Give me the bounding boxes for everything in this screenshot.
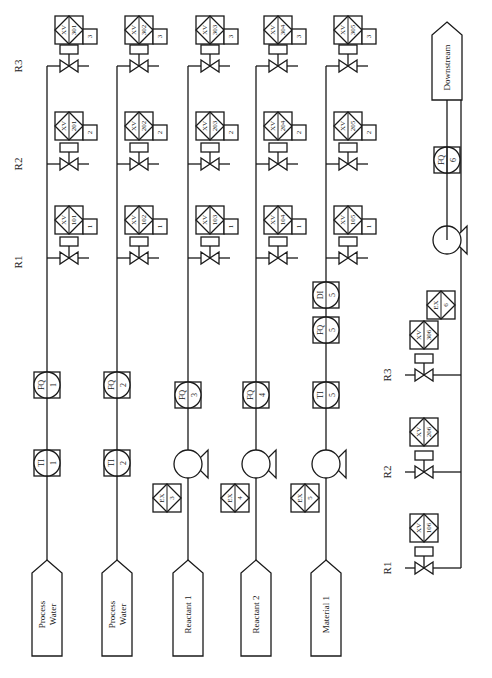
instrument-tag: FQ <box>107 380 116 390</box>
valve-actuator <box>269 45 287 54</box>
valve-xv301[interactable] <box>47 45 89 72</box>
valve-xv106[interactable] <box>405 547 461 574</box>
instrument-fq-3[interactable]: FQ3 <box>175 382 201 408</box>
valve-xv302[interactable] <box>117 45 159 72</box>
instrument-fq-2[interactable]: FQ2 <box>104 372 130 398</box>
symbol-number: 201 <box>70 120 78 131</box>
feed-pump-4[interactable] <box>242 450 276 478</box>
valve-xv102[interactable] <box>117 237 159 264</box>
ex-3-indicator[interactable]: EX3 <box>153 484 181 512</box>
xv-202-indicator[interactable]: XV202 <box>125 112 153 140</box>
xv-206-indicator[interactable]: XV206 <box>410 418 438 446</box>
valve-xv205[interactable] <box>326 143 368 170</box>
ex-4-indicator[interactable]: EX4 <box>221 484 249 512</box>
xv-203-indicator[interactable]: XV203 <box>196 112 224 140</box>
reactor-label-bottom-r1: R1 <box>381 562 393 575</box>
discharge-pump[interactable] <box>433 226 467 254</box>
position-number: 1 <box>86 224 94 228</box>
xv-104-indicator[interactable]: XV104 <box>264 206 292 234</box>
feed-line-3: Reactant 1XV1031XV2032XV3033FQ3EX3 <box>153 16 238 656</box>
pump-casing <box>242 450 270 478</box>
instrument-fq-4[interactable]: FQ4 <box>243 382 269 408</box>
instrument-fq-1[interactable]: FQ1 <box>34 372 60 398</box>
symbol-tag: XV <box>339 121 347 131</box>
symbol-tag: XV <box>130 121 138 131</box>
instrument-tag: DI <box>316 290 325 299</box>
xv-101-indicator[interactable]: XV101 <box>55 206 83 234</box>
symbol-number: 5 <box>306 496 314 500</box>
symbol-number: 4 <box>236 496 244 500</box>
valve-position-box: 2 <box>292 125 306 140</box>
reactor-label-r2: R2 <box>12 158 24 171</box>
valve-body-left <box>201 60 210 72</box>
feed-source-connector: Reactant 1 <box>173 560 203 656</box>
valve-xv105[interactable] <box>326 237 368 264</box>
xv-205-indicator[interactable]: XV205 <box>334 112 362 140</box>
connector-label-line2: Water <box>48 604 58 625</box>
valve-body-left <box>60 158 69 170</box>
instrument-fq-5[interactable]: FQ5 <box>313 317 339 343</box>
feed-line-1: ProcessWaterXV1011XV2012XV3013TI1FQ1 <box>32 16 97 656</box>
valve-body-left <box>269 252 278 264</box>
xv-304-indicator[interactable]: XV304 <box>264 16 292 44</box>
xv-301-indicator[interactable]: XV301 <box>55 16 83 44</box>
valve-body-left <box>269 60 278 72</box>
feed-pump-3[interactable] <box>174 450 208 478</box>
valve-position-box: 2 <box>224 125 238 140</box>
valve-position-box: 2 <box>362 125 376 140</box>
xv-102-indicator[interactable]: XV102 <box>125 206 153 234</box>
symbol-number: 302 <box>140 24 148 35</box>
position-number: 2 <box>156 130 164 134</box>
feed-pump-5[interactable] <box>312 450 346 478</box>
valve-xv103[interactable] <box>188 237 230 264</box>
valve-xv204[interactable] <box>256 143 298 170</box>
valve-actuator <box>201 143 219 152</box>
symbol-tag: XV <box>60 121 68 131</box>
valve-xv202[interactable] <box>117 143 159 170</box>
symbol-tag: XV <box>415 427 423 437</box>
valve-xv304[interactable] <box>256 45 298 72</box>
valve-xv201[interactable] <box>47 143 89 170</box>
symbol-tag: XV <box>130 25 138 35</box>
feed-source-connector: ProcessWater <box>32 560 62 656</box>
valve-position-box: 2 <box>153 125 167 140</box>
position-number: 1 <box>365 224 373 228</box>
instrument-ti-1[interactable]: TI1 <box>34 450 60 476</box>
instrument-ti-5[interactable]: TI5 <box>313 382 339 408</box>
valve-actuator <box>130 143 148 152</box>
xv-303-indicator[interactable]: XV303 <box>196 16 224 44</box>
symbol-tag: XV <box>339 25 347 35</box>
ex-6-indicator[interactable]: EX6 <box>427 291 455 319</box>
xv-306-indicator[interactable]: XV306 <box>410 321 438 349</box>
valve-position-box: 1 <box>224 219 238 234</box>
connector-label-line1: Process <box>107 600 117 628</box>
xv-105-indicator[interactable]: XV105 <box>334 206 362 234</box>
valve-xv203[interactable] <box>188 143 230 170</box>
valve-body-right <box>139 252 148 264</box>
instrument-number: 2 <box>119 383 128 387</box>
reactor-label-r3: R3 <box>12 59 24 72</box>
xv-302-indicator[interactable]: XV302 <box>125 16 153 44</box>
symbol-tag: XV <box>269 121 277 131</box>
ex-5-indicator[interactable]: EX5 <box>291 484 319 512</box>
discharge-line: XV106R1XV206R2XV306R3EX6FQ6Downstream <box>381 22 467 574</box>
valve-body-left <box>415 562 424 574</box>
position-number: 2 <box>365 130 373 134</box>
symbol-tag: XV <box>60 215 68 225</box>
valve-body-left <box>339 158 348 170</box>
xv-106-indicator[interactable]: XV106 <box>410 514 438 542</box>
position-number: 3 <box>156 34 164 38</box>
valve-xv206[interactable] <box>405 451 461 478</box>
instrument-di-5[interactable]: DI5 <box>313 282 339 308</box>
valve-xv104[interactable] <box>256 237 298 264</box>
xv-204-indicator[interactable]: XV204 <box>264 112 292 140</box>
xv-201-indicator[interactable]: XV201 <box>55 112 83 140</box>
xv-103-indicator[interactable]: XV103 <box>196 206 224 234</box>
instrument-ti-2[interactable]: TI2 <box>104 450 130 476</box>
valve-actuator <box>60 45 78 54</box>
valve-xv101[interactable] <box>47 237 89 264</box>
xv-305-indicator[interactable]: XV305 <box>334 16 362 44</box>
valve-xv303[interactable] <box>188 45 230 72</box>
valve-xv306[interactable] <box>405 354 461 381</box>
valve-xv305[interactable] <box>326 45 368 72</box>
